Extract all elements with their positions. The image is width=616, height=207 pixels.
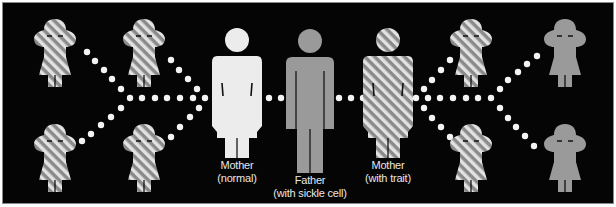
child-right-4-icon	[544, 124, 586, 192]
mother-trait-icon	[363, 28, 413, 158]
mother-trait-label: Mother (with trait)	[328, 159, 448, 185]
mother-trait-label-line1: Mother	[328, 159, 448, 172]
child-right-1-icon	[450, 19, 492, 87]
child-left-4-icon	[123, 124, 165, 192]
child-left-1-icon	[34, 19, 76, 87]
child-left-3-icon	[34, 124, 76, 192]
mother-trait-label-line2: (with trait)	[328, 172, 448, 185]
child-right-3-icon	[450, 124, 492, 192]
father-sickle-icon	[286, 29, 334, 173]
father-sickle-label-line2: (with sickle cell)	[250, 187, 370, 200]
mother-normal-label-line1: Mother	[177, 159, 297, 172]
mother-normal-icon	[212, 28, 262, 158]
child-right-2-icon	[544, 19, 586, 87]
child-left-2-icon	[123, 19, 165, 87]
